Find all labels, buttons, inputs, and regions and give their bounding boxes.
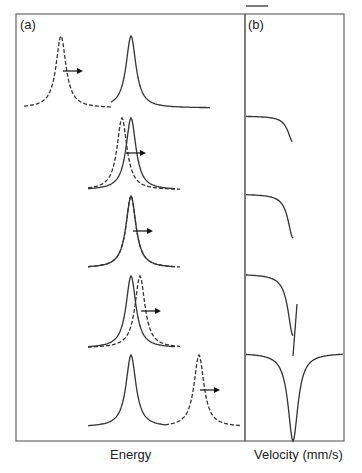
solid-peak [88, 196, 175, 267]
arrowhead-icon [147, 228, 153, 234]
panel-a-frame [16, 14, 245, 441]
velocity-axis-label: Velocity (mm/s) [254, 447, 343, 462]
arrowhead-icon [155, 308, 161, 314]
absorption-spectrum [246, 275, 297, 356]
panel-b-frame [245, 14, 344, 441]
arrowhead-icon [214, 387, 220, 393]
absorption-spectrum [246, 354, 343, 441]
arrowhead-icon [140, 150, 146, 156]
absorption-spectrum [246, 116, 292, 141]
absorption-spectrum [246, 195, 293, 238]
panel-b-label: (b) [248, 17, 264, 32]
arrowhead-icon [77, 68, 83, 74]
solid-peak [88, 276, 175, 347]
solid-peak [111, 36, 210, 108]
mossbauer-diagram [0, 0, 362, 473]
panel-a-label: (a) [20, 17, 36, 32]
solid-peak [88, 355, 165, 426]
energy-axis-label: Energy [110, 447, 151, 462]
